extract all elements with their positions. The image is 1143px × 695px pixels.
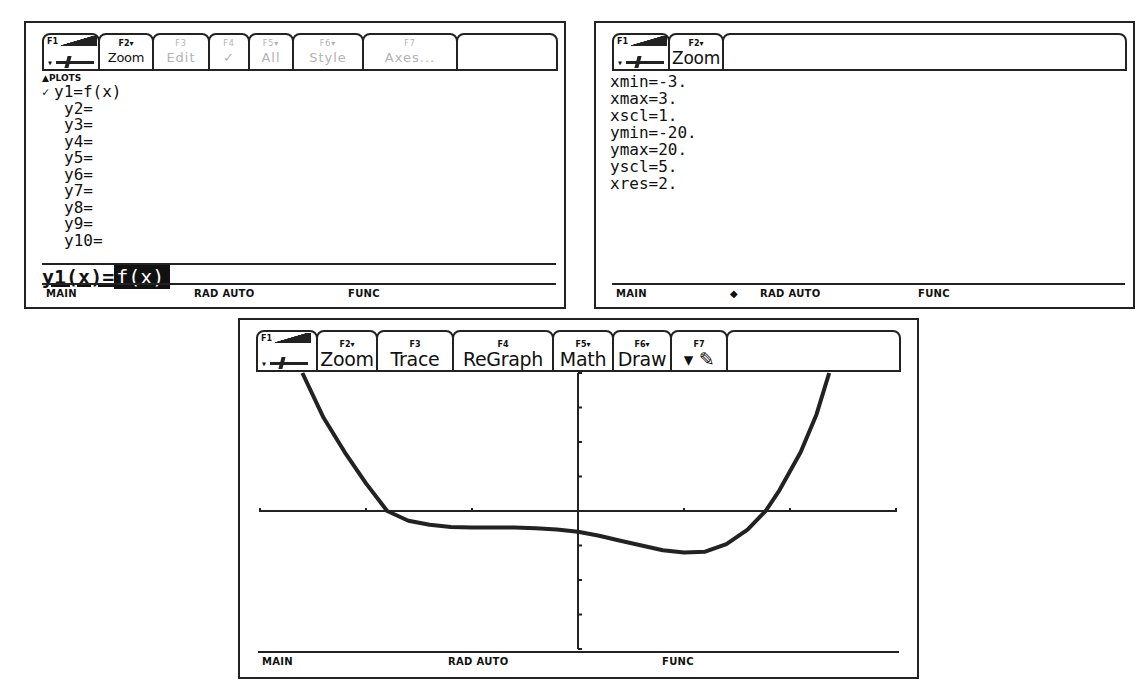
status-mode: RAD AUTO xyxy=(448,656,509,667)
checkmark-icon xyxy=(42,200,54,217)
status-bar: MAIN ◆ RAD AUTO FUNC xyxy=(612,283,1125,303)
fkey-label: F7 xyxy=(404,39,416,48)
tab-label: All xyxy=(261,48,280,68)
fkey-label: F2▾ xyxy=(688,39,703,48)
window-variable[interactable]: ymin=-20. xyxy=(610,124,697,141)
y-editor-screen: F1▾F2▾ZoomF3EditF4✓F5▾AllF6▾StyleF7Axes.… xyxy=(24,21,566,309)
status-graph-mode: FUNC xyxy=(918,288,950,299)
toolbar-tab-zoom[interactable]: F2▾Zoom xyxy=(98,33,154,71)
function-row[interactable]: y10= xyxy=(42,233,121,250)
saw-icon xyxy=(275,333,311,343)
status-mode: RAD AUTO xyxy=(760,288,821,299)
checkmark-icon xyxy=(42,134,54,151)
status-bar: MAIN RAD AUTO FUNC xyxy=(258,651,899,671)
tools-menu-tab[interactable]: F1▾ xyxy=(612,33,670,71)
status-indicator: ◆ xyxy=(730,288,738,299)
fkey-label: F5▾ xyxy=(263,39,280,48)
toolbar-tab-edit[interactable]: F3Edit xyxy=(152,33,210,71)
tab-label: Math xyxy=(560,349,606,369)
status-graph-mode: FUNC xyxy=(348,288,380,299)
checkmark-icon xyxy=(42,167,54,184)
window-variable[interactable]: xres=2. xyxy=(610,175,697,192)
function-list: ✓y1=f(x)y2=y3=y4=y5=y6=y7=y8=y9=y10= xyxy=(42,84,121,249)
toolbar-empty-tab xyxy=(722,33,1127,71)
toolbar-tab-[interactable]: F7▾ ✎ xyxy=(670,330,728,372)
graph-plot[interactable] xyxy=(240,320,917,677)
tab-label: Zoom xyxy=(108,48,144,68)
hammer-icon xyxy=(56,56,94,68)
tab-label: Zoom xyxy=(320,349,374,369)
window-toolbar: F1▾F2▾Zoom xyxy=(612,33,1125,71)
pencil-icon: ▾ ✎ xyxy=(684,349,715,369)
status-graph-mode: FUNC xyxy=(662,656,694,667)
toolbar-tab-style[interactable]: F6▾Style xyxy=(292,33,364,71)
checkmark-icon xyxy=(42,150,54,167)
yeq-toolbar: F1▾F2▾ZoomF3EditF4✓F5▾AllF6▾StyleF7Axes.… xyxy=(42,33,556,71)
window-variables: xmin=-3.xmax=3.xscl=1.ymin=-20.ymax=20.y… xyxy=(610,73,697,192)
window-variable[interactable]: xmax=3. xyxy=(610,90,697,107)
tab-label: Trace xyxy=(391,349,440,369)
tab-label: Axes... xyxy=(385,48,435,68)
fkey-label: F2▾ xyxy=(118,39,133,48)
toolbar-tab-all[interactable]: F5▾All xyxy=(248,33,294,71)
function-label: y10= xyxy=(54,233,103,250)
tools-menu-tab[interactable]: F1▾ xyxy=(256,330,318,372)
fkey-label: F1 xyxy=(261,334,272,343)
checkmark-icon xyxy=(42,216,54,233)
tab-label: Draw xyxy=(618,349,666,369)
toolbar-tab-regraph[interactable]: F4ReGraph xyxy=(452,330,554,372)
checkmark-icon xyxy=(42,233,54,250)
window-variable[interactable]: xscl=1. xyxy=(610,107,697,124)
status-folder: MAIN xyxy=(616,288,647,299)
toolbar-tab-math[interactable]: F5▾Math xyxy=(552,330,614,372)
window-variable[interactable]: xmin=-3. xyxy=(610,73,697,90)
status-folder: MAIN xyxy=(262,656,293,667)
checkmark-icon: ✓ xyxy=(42,84,54,101)
status-folder: MAIN xyxy=(46,288,77,299)
hammer-icon xyxy=(626,56,664,68)
function-curve-y1 xyxy=(302,373,829,552)
fkey-label: F3 xyxy=(175,39,187,48)
tab-label: Style xyxy=(309,48,347,68)
saw-icon xyxy=(631,36,667,46)
tools-menu-tab[interactable]: F1▾ xyxy=(42,33,100,71)
tab-label: Edit xyxy=(166,48,195,68)
status-mode: RAD AUTO xyxy=(194,288,255,299)
graph-screen: F1▾F2▾ZoomF3TraceF4ReGraphF5▾MathF6▾Draw… xyxy=(238,318,919,679)
toolbar-empty-tab xyxy=(726,330,901,372)
window-editor-screen: F1▾F2▾Zoom xmin=-3.xmax=3.xscl=1.ymin=-2… xyxy=(594,21,1135,309)
toolbar-empty-tab xyxy=(456,33,558,71)
window-variable[interactable]: yscl=5. xyxy=(610,158,697,175)
saw-icon xyxy=(61,36,97,46)
toolbar-tab-draw[interactable]: F6▾Draw xyxy=(612,330,672,372)
toolbar-tab-[interactable]: F4✓ xyxy=(208,33,250,71)
checkmark-icon xyxy=(42,101,54,118)
dropdown-arrow-icon: ▾ xyxy=(47,57,53,68)
hammer-icon xyxy=(270,357,308,369)
dropdown-arrow-icon: ▾ xyxy=(617,57,623,68)
fkey-label: F6▾ xyxy=(320,39,337,48)
checkmark-icon xyxy=(42,117,54,134)
fkey-label: F1 xyxy=(47,37,58,46)
tab-label: ReGraph xyxy=(463,349,543,369)
window-variable[interactable]: ymax=20. xyxy=(610,141,697,158)
tab-label: ✓ xyxy=(223,48,235,68)
fkey-label: F1 xyxy=(617,37,628,46)
graph-toolbar: F1▾F2▾ZoomF3TraceF4ReGraphF5▾MathF6▾Draw… xyxy=(256,330,899,372)
toolbar-tab-zoom[interactable]: F2▾Zoom xyxy=(668,33,724,71)
tab-label: Zoom xyxy=(672,48,720,68)
toolbar-tab-axes[interactable]: F7Axes... xyxy=(362,33,458,71)
checkmark-icon xyxy=(42,183,54,200)
fkey-label: F4 xyxy=(223,39,235,48)
toolbar-tab-zoom[interactable]: F2▾Zoom xyxy=(316,330,378,372)
toolbar-tab-trace[interactable]: F3Trace xyxy=(376,330,454,372)
status-bar: MAIN RAD AUTO FUNC xyxy=(42,283,556,303)
dropdown-arrow-icon: ▾ xyxy=(261,358,267,369)
